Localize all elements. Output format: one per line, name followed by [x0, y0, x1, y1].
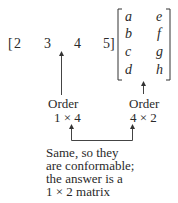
left-arrow-head	[59, 51, 64, 56]
row-vector-element: 5	[103, 37, 110, 51]
left-order-title: Order	[48, 97, 78, 110]
row-vector-element: 2	[14, 37, 21, 51]
note-line: 1 × 2 matrix	[46, 185, 134, 198]
row-vector-element: 4	[74, 37, 81, 51]
connector-line	[72, 127, 133, 141]
row-vector-close-bracket: ]	[110, 37, 115, 51]
row-vector-element: 3	[44, 37, 51, 51]
left-order-value: 1 × 4	[54, 111, 81, 124]
matrix-cell: h	[156, 63, 163, 77]
matrix-cell: d	[125, 63, 132, 77]
explanation-note: Same, so they are conformable; the answe…	[46, 146, 134, 198]
matrix-cell: e	[156, 10, 162, 24]
right-order-value: 4 × 2	[130, 111, 157, 124]
matrix-cell: c	[125, 45, 131, 59]
matrix-cell: g	[156, 45, 163, 59]
matrix-cell: f	[157, 27, 161, 41]
row-vector-open-bracket: [	[8, 37, 13, 51]
matrix-cell: a	[125, 10, 132, 24]
matrix-cell: b	[125, 27, 132, 41]
matrix-left-bracket	[118, 9, 122, 80]
right-order-title: Order	[129, 97, 159, 110]
matrix-right-bracket	[166, 9, 170, 80]
right-arrow-head	[141, 81, 146, 86]
